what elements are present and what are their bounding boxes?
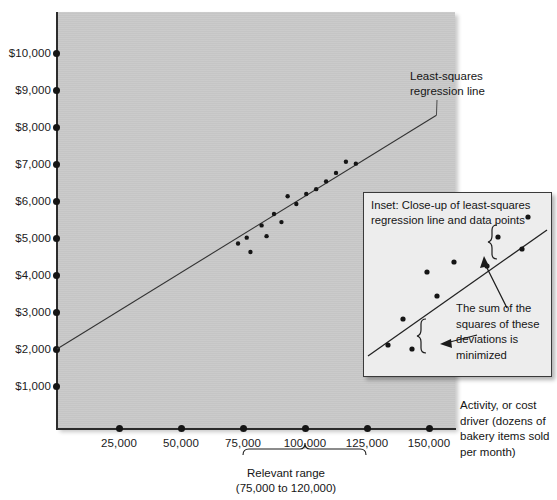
inset-scatter-point xyxy=(525,214,530,219)
relevant-range-bracket-icon xyxy=(243,443,366,455)
inset-lower-brace-icon xyxy=(417,319,426,353)
callout-line-1: Least-squares xyxy=(410,69,485,84)
scatter-point xyxy=(354,161,358,165)
scatter-point xyxy=(272,212,276,216)
callout-line-2: regression line xyxy=(410,84,485,99)
inset-note-line-3: deviations is xyxy=(456,332,551,348)
inset-panel: Inset: Close-up of least-squares regress… xyxy=(363,192,552,377)
scatter-point xyxy=(264,234,268,238)
scatter-point xyxy=(324,179,328,183)
scatter-point xyxy=(279,220,283,224)
chart-figure: $10,000 $9,000 $8,000 $7,000 $6,000 $5,0… xyxy=(0,0,557,500)
scatter-point xyxy=(236,241,240,245)
inset-scatter-point xyxy=(495,234,500,239)
scatter-point xyxy=(259,223,263,227)
inset-scatter-point xyxy=(385,342,390,347)
scatter-point xyxy=(248,250,252,254)
regression-line-callout: Least-squares regression line xyxy=(410,69,485,99)
relevant-range-caption: Relevant range (75,000 to 120,000) xyxy=(186,466,386,496)
relevant-range-line-1: Relevant range xyxy=(186,466,386,481)
inset-scatter-point xyxy=(451,259,456,264)
scatter-point xyxy=(285,194,289,198)
inset-note-line-4: minimized xyxy=(456,348,551,364)
scatter-point xyxy=(344,160,348,164)
inset-note-line-2: squares of these xyxy=(456,317,551,333)
scatter-point xyxy=(304,192,308,196)
inset-scatter-point xyxy=(434,293,439,298)
scatter-point xyxy=(245,235,249,239)
inset-scatter-point xyxy=(424,269,429,274)
inset-scatter-point xyxy=(409,346,414,351)
scatter-point xyxy=(294,202,298,206)
scatter-points-group xyxy=(236,160,358,255)
relevant-range-line-2: (75,000 to 120,000) xyxy=(186,481,386,496)
inset-scatter-point xyxy=(400,316,405,321)
inset-note-line-1: The sum of the xyxy=(456,301,551,317)
scatter-point xyxy=(334,171,338,175)
x-axis-caption: Activity, or cost driver (dozens of bake… xyxy=(460,398,555,460)
inset-upper-brace-icon xyxy=(488,225,497,259)
inset-scatter-point xyxy=(519,246,524,251)
inset-lower-arrowhead-icon xyxy=(440,339,452,348)
inset-upper-arrowhead-icon xyxy=(480,256,489,268)
scatter-point xyxy=(314,187,318,191)
inset-note: The sum of the squares of these deviatio… xyxy=(456,301,551,363)
regression-line-extension xyxy=(436,100,437,115)
